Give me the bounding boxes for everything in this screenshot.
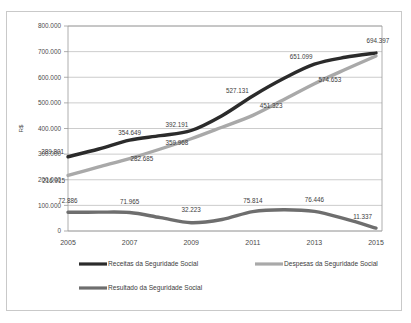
value-label: 11.337 (353, 213, 372, 220)
value-label: 71.965 (120, 198, 140, 205)
chart-legend: Receitas da Seguridade SocialDespesas da… (79, 260, 378, 292)
value-label: 75.814 (243, 197, 263, 204)
value-label: 289.801 (41, 148, 64, 155)
y-tick-label: 600.000 (38, 74, 62, 81)
x-axis-tick-labels: 200520072009201120132015 (60, 239, 384, 246)
y-tick-label: 800.000 (38, 22, 62, 29)
line-chart-plot: 0100.000200.000300.000400.000500.000600.… (7, 12, 401, 310)
value-label: 282.685 (131, 155, 154, 162)
y-tick-label: 700.000 (38, 48, 62, 55)
value-label: 354.649 (118, 129, 141, 136)
value-label: 72.886 (58, 197, 78, 204)
y-axis-title-text: R$ (17, 124, 24, 132)
value-label: 651.099 (290, 53, 313, 60)
legend-label-2: Despesas da Seguridade Social (284, 260, 378, 268)
y-tick-label: 0 (57, 227, 61, 234)
value-label: 32.223 (182, 206, 202, 213)
value-label: 359.968 (165, 139, 188, 146)
x-tick-label: 2007 (122, 239, 138, 246)
value-label: 216.915 (42, 177, 65, 184)
y-tick-label: 400.000 (38, 125, 62, 132)
legend-label-1: Receitas da Seguridade Social (108, 260, 199, 268)
value-label: 527.131 (226, 87, 249, 94)
x-tick-label: 2013 (307, 239, 323, 246)
gridlines-group (68, 26, 382, 231)
value-label: 694.397 (367, 37, 390, 44)
value-label: 451.323 (260, 102, 283, 109)
legend-label-3: Resultado da Seguridade Social (108, 284, 203, 292)
chart-container: 0100.000200.000300.000400.000500.000600.… (6, 11, 402, 311)
x-tick-label: 2011 (245, 239, 260, 246)
series-line-3 (68, 210, 376, 228)
value-label: 574.653 (318, 76, 341, 83)
series-line-1 (68, 53, 376, 157)
x-tick-label: 2005 (60, 239, 76, 246)
x-tick-label: 2009 (183, 239, 199, 246)
y-tick-label: 500.000 (38, 99, 62, 106)
x-tick-label: 2015 (368, 239, 384, 246)
value-label: 76.446 (305, 196, 325, 203)
y-axis-title: R$ (17, 124, 24, 132)
value-label: 392.191 (165, 121, 188, 128)
